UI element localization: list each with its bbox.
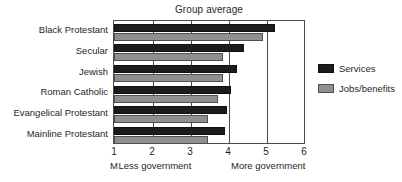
bar-group [114,44,304,62]
x-tick-label: 1 [104,146,124,158]
bar-services [114,86,231,94]
category-label: Secular [76,45,108,56]
bar-jobs [114,53,223,61]
x-tick-label: 2 [142,146,162,158]
x-tick-label: 3 [180,146,200,158]
category-label: Black Protestant [39,24,108,35]
bar-jobs [114,115,208,123]
legend-label: Jobs/benefits [339,82,395,95]
category-label: Jewish [79,66,108,77]
bar-jobs [114,95,218,103]
bar-group [114,65,304,83]
bar-jobs [114,74,223,82]
x-tick-label: 4 [218,146,238,158]
chart-figure: Group average Black ProtestantSecularJew… [0,0,402,182]
chart-legend: ServicesJobs/benefits [318,62,402,102]
bar-services [114,65,237,73]
legend-item[interactable]: Jobs/benefits [318,82,402,97]
bar-services [114,106,227,114]
x-tick-label: 6 [294,146,314,158]
legend-label: Services [339,62,375,75]
legend-swatch-services [318,64,334,73]
category-label: Mainline Protestant [27,128,108,139]
bar-group [114,127,304,145]
bar-group [114,86,304,104]
bar-services [114,127,225,135]
bar-services [114,44,244,52]
legend-item[interactable]: Services [318,62,402,77]
stray-glyph: M [110,160,118,171]
x-tick-label: 5 [256,146,276,158]
category-label: Roman Catholic [40,86,108,97]
legend-swatch-jobs [318,84,334,93]
bar-jobs [114,33,263,41]
category-label: Evangelical Protestant [13,107,108,118]
bar-group [114,24,304,42]
bar-jobs [114,136,208,144]
axis-caption-less-government: MLess government [110,160,191,171]
chart-title: Group average [113,4,305,16]
axis-caption-more-government: More government [231,160,305,171]
axis-caption-left-text: Less government [118,160,191,171]
bars-layer [114,21,304,143]
bar-services [114,24,275,32]
plot-area [113,20,305,144]
bar-group [114,106,304,124]
